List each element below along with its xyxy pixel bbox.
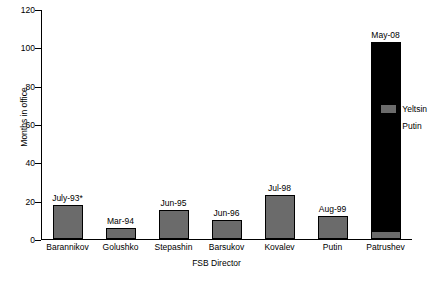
bar-slot: Jun-95 bbox=[147, 10, 200, 239]
x-tick-label: Patrushev bbox=[366, 242, 404, 252]
y-axis-title: Months in office bbox=[19, 87, 29, 146]
bar-slot: July-93* bbox=[41, 10, 94, 239]
bar-group: July-93*Mar-94Jun-95Jun-96Jul-98Aug-99Ma… bbox=[41, 10, 412, 239]
legend: Yeltsin Putin bbox=[380, 104, 427, 131]
bar-chart-figure: 0 20 40 60 80 100 120 Months in office J… bbox=[0, 0, 433, 282]
y-axis-tick-labels: 0 20 40 60 80 100 120 bbox=[0, 10, 35, 240]
bar-slot: Jun-96 bbox=[200, 10, 253, 239]
bar-segment-yeltsin bbox=[107, 229, 135, 238]
bar-value-label: Jul-98 bbox=[268, 183, 291, 193]
bar-value-label: Jun-96 bbox=[214, 208, 240, 218]
bar-value-label: Aug-99 bbox=[319, 204, 346, 214]
bar[interactable] bbox=[159, 210, 189, 239]
bar-value-label: Mar-94 bbox=[107, 216, 134, 226]
bar[interactable] bbox=[106, 228, 136, 239]
legend-item-putin: Putin bbox=[380, 121, 427, 131]
bar-segment-yeltsin bbox=[213, 221, 241, 238]
x-tick-label: Kovalev bbox=[264, 242, 294, 252]
x-tick-label: Putin bbox=[323, 242, 342, 252]
y-tick-label: 120 bbox=[21, 5, 35, 15]
bar-segment-yeltsin bbox=[266, 196, 294, 238]
bar-slot: Mar-94 bbox=[94, 10, 147, 239]
bar-slot: Jul-98 bbox=[253, 10, 306, 239]
x-tick-label: Golushko bbox=[103, 242, 139, 252]
x-axis-title: FSB Director bbox=[0, 258, 433, 268]
legend-swatch-icon bbox=[380, 121, 397, 131]
legend-label: Yeltsin bbox=[402, 104, 427, 114]
y-tick-label: 20 bbox=[26, 197, 35, 207]
bar-segment-putin bbox=[372, 43, 400, 232]
bar-segment-yeltsin bbox=[54, 206, 82, 238]
legend-item-yeltsin: Yeltsin bbox=[380, 104, 427, 114]
bar[interactable] bbox=[212, 220, 242, 239]
bar[interactable] bbox=[318, 216, 348, 239]
bar-slot: Aug-99 bbox=[306, 10, 359, 239]
x-axis-tick-labels: BarannikovGolushkoStepashinBarsukovKoval… bbox=[41, 242, 412, 256]
bar-segment-yeltsin bbox=[372, 232, 400, 238]
legend-label: Putin bbox=[402, 121, 421, 131]
x-tick-label: Barsukov bbox=[209, 242, 244, 252]
x-tick-label: Stepashin bbox=[155, 242, 193, 252]
legend-swatch-icon bbox=[380, 104, 397, 114]
bar-segment-yeltsin bbox=[160, 211, 188, 238]
x-axis-line bbox=[41, 239, 412, 240]
y-tick-label: 100 bbox=[21, 43, 35, 53]
bar-value-label: May-08 bbox=[371, 30, 399, 40]
bar-value-label: July-93* bbox=[52, 193, 83, 203]
plot-area: July-93*Mar-94Jun-95Jun-96Jul-98Aug-99Ma… bbox=[41, 10, 412, 240]
bar[interactable] bbox=[265, 195, 295, 239]
bar-value-label: Jun-95 bbox=[161, 198, 187, 208]
x-tick-label: Barannikov bbox=[46, 242, 89, 252]
y-tick-label: 40 bbox=[26, 158, 35, 168]
bar[interactable] bbox=[53, 205, 83, 239]
y-tick-mark bbox=[35, 240, 41, 241]
bar[interactable] bbox=[371, 42, 401, 239]
bar-segment-yeltsin bbox=[319, 217, 347, 238]
